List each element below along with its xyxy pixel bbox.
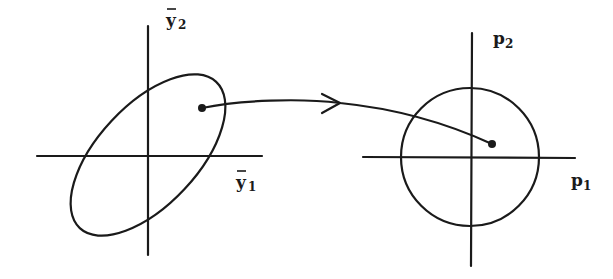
right-panel: p 2 p 1 bbox=[363, 28, 591, 266]
svg-text:y: y bbox=[165, 10, 177, 30]
axis-label-p-2: p 2 bbox=[493, 28, 513, 51]
ellipse-to-circle-mapping-diagram: y 2 y 1 p 2 p 1 bbox=[0, 0, 613, 279]
svg-text:2: 2 bbox=[178, 18, 186, 32]
arrow-curve bbox=[202, 100, 492, 144]
svg-text:p: p bbox=[493, 28, 505, 48]
axis-label-y-tilde-1: y 1 bbox=[235, 171, 256, 194]
svg-text:2: 2 bbox=[505, 37, 513, 51]
svg-text:y: y bbox=[235, 172, 247, 192]
right-point bbox=[488, 140, 496, 148]
arrowhead-icon bbox=[322, 94, 340, 113]
svg-text:p: p bbox=[571, 170, 583, 190]
axis-label-y-tilde-2: y 2 bbox=[165, 9, 186, 32]
svg-text:1: 1 bbox=[248, 180, 256, 194]
right-vertical-axis bbox=[471, 33, 472, 266]
left-panel: y 2 y 1 bbox=[37, 9, 262, 262]
mapping-arrow bbox=[202, 94, 492, 144]
axis-label-p-1: p 1 bbox=[571, 170, 591, 193]
svg-text:1: 1 bbox=[583, 179, 591, 193]
right-horizontal-axis bbox=[363, 157, 575, 158]
